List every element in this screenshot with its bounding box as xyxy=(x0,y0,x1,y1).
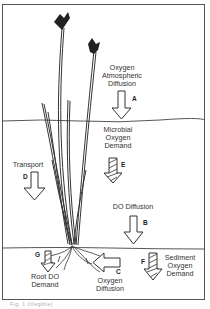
water-surface-line xyxy=(2,119,205,122)
letter-e: E xyxy=(121,161,125,168)
arrow-a-icon xyxy=(112,91,131,119)
label-microbial-oxygen-demand: Microbial Oxygen Demand xyxy=(96,126,140,150)
label-line: Diffusion xyxy=(92,285,128,293)
figure-caption: Fig. 1 (illegible) xyxy=(10,301,53,307)
arrow-f-icon xyxy=(144,253,162,280)
label-line: Demand xyxy=(25,281,65,289)
label-do-diffusion: DO Diffusion xyxy=(108,203,158,211)
label-line: Demand xyxy=(162,270,198,278)
arrow-e-icon xyxy=(104,158,122,183)
letter-d: D xyxy=(23,173,28,180)
letter-c: C xyxy=(116,268,121,275)
roots-icon xyxy=(50,246,100,272)
plant-icon xyxy=(42,28,96,245)
label-oxygen-diffusion: Oxygen Diffusion xyxy=(92,277,128,293)
arrow-g-icon xyxy=(41,251,55,272)
arrow-b-icon xyxy=(124,216,143,244)
label-sediment-oxygen-demand: Sediment Oxygen Demand xyxy=(162,254,198,278)
label-transport: Transport xyxy=(8,161,48,169)
label-line: Demand xyxy=(96,142,140,150)
sediment-surface-line xyxy=(2,248,205,250)
letter-f: F xyxy=(141,258,145,265)
label-line: Diffusion xyxy=(98,80,146,88)
letter-g: G xyxy=(35,251,40,258)
label-line: DO Diffusion xyxy=(108,203,158,211)
label-line: Transport xyxy=(8,161,48,169)
label-root-do-demand: Root DO Demand xyxy=(25,273,65,289)
letter-b: B xyxy=(143,219,148,226)
label-oxygen-atmospheric-diffusion: Oxygen Atmospheric Diffusion xyxy=(98,64,146,88)
letter-a: A xyxy=(132,95,137,102)
